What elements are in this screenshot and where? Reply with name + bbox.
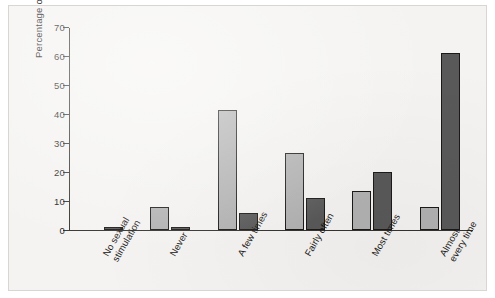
- bar-group: [150, 27, 190, 230]
- y-tick-label: 0: [60, 225, 65, 236]
- bar-group: [83, 27, 123, 230]
- x-category-label: Never: [168, 231, 190, 259]
- y-axis-line: [69, 28, 70, 231]
- y-tick-label: 70: [54, 22, 65, 33]
- bar: [171, 227, 190, 230]
- y-tick-label: 50: [54, 80, 65, 91]
- bar-group: [285, 27, 325, 230]
- bar-group: [218, 27, 258, 230]
- y-tick-label: 20: [54, 167, 65, 178]
- plot-area: 010203040506070 No sexual stimulationNev…: [69, 23, 473, 231]
- y-tick-label: 30: [54, 138, 65, 149]
- y-tick-label: 10: [54, 196, 65, 207]
- bar: [352, 191, 371, 230]
- y-axis-title: Percentage of patients: [33, 0, 44, 58]
- bar: [441, 53, 460, 230]
- y-tick-label: 40: [54, 109, 65, 120]
- y-tick-label: 60: [54, 51, 65, 62]
- bar-group: [420, 27, 460, 230]
- bar: [218, 110, 237, 230]
- bar: [420, 207, 439, 230]
- figure-panel: Percentage of patients 010203040506070 N…: [8, 5, 487, 291]
- bar: [285, 153, 304, 230]
- bar-group: [352, 27, 392, 230]
- bar: [150, 207, 169, 230]
